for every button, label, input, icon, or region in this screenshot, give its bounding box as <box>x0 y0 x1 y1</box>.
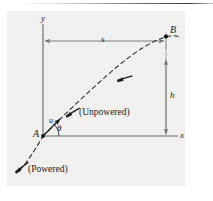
point-a-marker <box>41 134 45 138</box>
angle-label-theta: θ <box>57 124 61 133</box>
velocity-label-u: u <box>49 117 53 125</box>
phase-label-powered: (Powered) <box>28 165 68 175</box>
unpowered-trajectory-path <box>43 36 179 136</box>
dimension-label-s: s <box>101 35 105 44</box>
dimension-label-h: h <box>170 91 175 100</box>
projectile-icon-unpowered-first <box>66 107 80 119</box>
x-axis-label: x <box>180 131 184 140</box>
projectile-icon-unpowered-second <box>116 71 132 86</box>
projectile-icon-powered <box>15 162 29 174</box>
point-b-marker <box>164 34 168 38</box>
figure-root: y x A B s h u θ (Powered) (Unpowered) <box>0 0 213 201</box>
point-b-label: B <box>170 25 176 35</box>
phase-label-unpowered: (Unpowered) <box>79 108 130 118</box>
point-a-label: A <box>33 129 39 139</box>
y-axis-label: y <box>41 14 45 23</box>
